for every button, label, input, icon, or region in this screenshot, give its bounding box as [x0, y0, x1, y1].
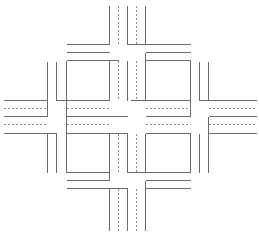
background	[0, 0, 259, 236]
road-intersection-diagram	[0, 0, 259, 236]
